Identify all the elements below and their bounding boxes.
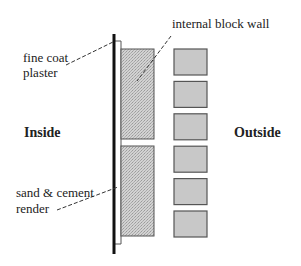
internal-block-lower	[121, 146, 154, 236]
outer-block	[174, 211, 207, 237]
outer-block	[174, 49, 207, 75]
plaster-leader	[66, 42, 113, 65]
block-wall-label: internal block wall	[172, 16, 270, 31]
internal-block-upper	[121, 49, 154, 139]
wall-section-diagram: fine coat plaster internal block wall sa…	[0, 0, 301, 266]
render-label-line1: sand & cement	[16, 185, 94, 200]
outer-block	[174, 81, 207, 107]
outer-block	[174, 114, 207, 140]
outer-block	[174, 146, 207, 172]
outer-block	[174, 179, 207, 205]
render-label-line2: render	[16, 201, 50, 216]
inside-label: Inside	[24, 125, 61, 140]
outside-label: Outside	[234, 125, 281, 140]
plaster-label-line1: fine coat	[23, 50, 69, 65]
outer-block-column	[174, 49, 207, 237]
plaster-label-line2: plaster	[23, 65, 58, 80]
